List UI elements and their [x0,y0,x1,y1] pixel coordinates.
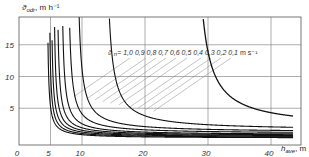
x-tick-label: 20 [138,149,148,157]
leader-lines [74,58,231,111]
legend-label: ϑ n= 1,0 0,9 0,8 0,7 0,6 0,5 0,4 0,3 0,2… [108,49,258,57]
x-tick-label: 30 [202,149,211,157]
curves [48,17,293,138]
leader-line [95,58,156,100]
y-tick-label: 10 [5,73,14,82]
axes [19,17,301,145]
curve-0-3 [79,17,293,131]
x-tick-label: 10 [76,149,85,157]
curve-0-7 [55,27,293,136]
leader-line [103,58,166,101]
leader-line [74,58,130,97]
y-axis-label: ϑodr, m h⁻¹ [22,3,60,13]
x-axis-label: have, m [281,144,307,154]
grid [19,17,301,145]
y-tick-label: 5 [10,104,15,113]
leader-line [146,58,221,110]
x-tick-label: 0 [15,149,20,157]
x-tick-label: 5 [46,149,51,157]
curve-0-4 [70,28,293,133]
curve-0-5 [63,26,293,134]
leader-line [138,58,211,108]
x-tick-label: 40 [265,149,274,157]
chart: 051020304051015 ϑodr, m h⁻¹ have, m ϑ n=… [0,0,309,157]
plot-frame [19,17,301,145]
y-tick-label: 15 [5,41,14,50]
